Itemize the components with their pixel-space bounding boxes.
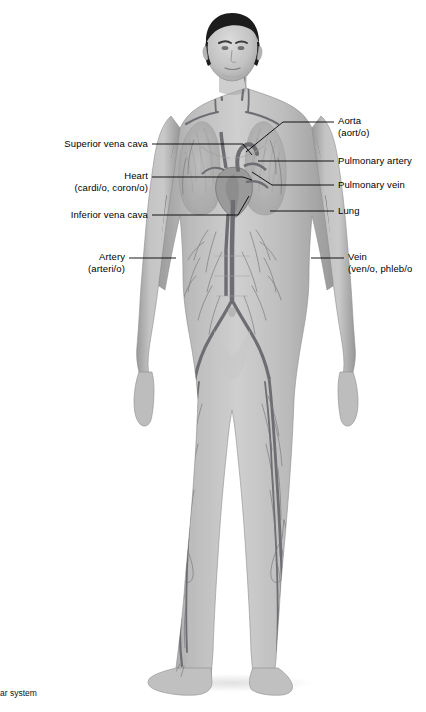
figure-caption: ar system bbox=[0, 688, 37, 698]
label-vein-line1: Vein bbox=[348, 251, 412, 263]
navel bbox=[228, 307, 236, 317]
label-heart-line1: Heart bbox=[74, 170, 148, 182]
label-heart: Heart (cardi/o, coron/o) bbox=[74, 170, 148, 193]
label-vein: Vein (ven/o, phleb/o bbox=[348, 251, 412, 274]
label-pulmonary-artery-line1: Pulmonary artery bbox=[338, 155, 412, 167]
inferior-vena-cava bbox=[226, 214, 228, 296]
left-arm bbox=[137, 116, 180, 390]
label-artery: Artery (arteri/o) bbox=[88, 251, 125, 274]
tibial-left bbox=[281, 556, 284, 664]
label-inferior-vena-cava: Inferior vena cava bbox=[71, 209, 148, 221]
label-superior-vena-cava-line1: Superior vena cava bbox=[64, 138, 148, 150]
label-heart-line2: (cardi/o, coron/o) bbox=[74, 182, 148, 194]
label-inferior-vena-cava-line1: Inferior vena cava bbox=[71, 209, 148, 221]
label-aorta-line1: Aorta bbox=[338, 115, 369, 127]
left-foot bbox=[148, 668, 212, 695]
label-pulmonary-vein: Pulmonary vein bbox=[338, 179, 405, 191]
label-artery-line1: Artery bbox=[88, 251, 125, 263]
left-hand bbox=[134, 372, 154, 426]
right-hand bbox=[338, 372, 358, 426]
label-aorta-line2: (aort/o) bbox=[338, 127, 369, 139]
jugular-left bbox=[248, 84, 249, 112]
label-vein-line2: (ven/o, phleb/o bbox=[348, 263, 412, 275]
label-pulmonary-artery: Pulmonary artery bbox=[338, 155, 412, 167]
cardiovascular-figure bbox=[0, 0, 426, 712]
label-pulmonary-vein-line1: Pulmonary vein bbox=[338, 179, 405, 191]
eye-left bbox=[222, 46, 229, 50]
label-superior-vena-cava: Superior vena cava bbox=[64, 138, 148, 150]
eye-right bbox=[238, 46, 245, 50]
label-lung: Lung bbox=[338, 205, 360, 217]
label-lung-line1: Lung bbox=[338, 205, 360, 217]
label-aorta: Aorta (aort/o) bbox=[338, 115, 369, 138]
right-foot bbox=[249, 668, 292, 695]
label-artery-line2: (arteri/o) bbox=[88, 263, 125, 275]
jugular-right bbox=[215, 84, 216, 112]
